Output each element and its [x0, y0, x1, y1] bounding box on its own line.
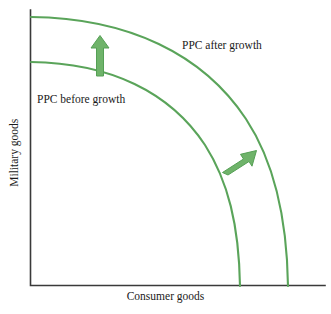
ppc-after-growth-label: PPC after growth — [182, 40, 262, 52]
axis-lines — [31, 10, 326, 286]
y-axis-label: Military goods — [9, 107, 21, 199]
ppc-after-growth-curve — [31, 17, 288, 286]
x-axis-label: Consumer goods — [0, 291, 331, 303]
ppc-before-growth-label: PPC before growth — [37, 94, 125, 106]
axis-path — [31, 10, 326, 286]
growth-arrow-diagonal-icon — [223, 151, 257, 176]
ppc-chart-canvas — [0, 0, 331, 314]
ppc-growth-figure: PPC after growth PPC before growth Consu… — [0, 0, 331, 314]
